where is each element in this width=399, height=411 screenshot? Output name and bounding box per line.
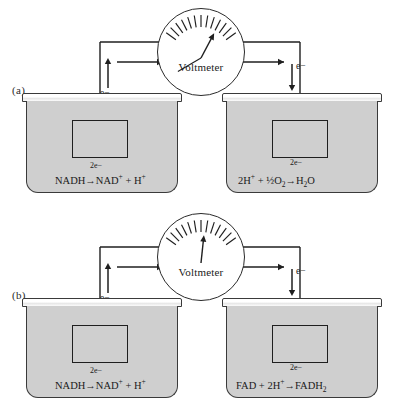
voltmeter-needle-b — [198, 235, 207, 263]
reaction-right-b: FAD + 2H+→FADH2 — [236, 377, 327, 394]
reactant: NADH — [55, 175, 85, 186]
panel-a: (a) e− e− — [0, 0, 399, 205]
electrode-right-a — [272, 120, 328, 158]
voltmeter-b-label: Voltmeter — [158, 266, 244, 278]
voltmeter-needle-a — [198, 32, 216, 60]
electrode-left-a — [72, 120, 128, 158]
voltmeter-b[interactable]: Voltmeter — [157, 213, 245, 301]
product-tail: O — [307, 175, 315, 186]
reaction-right-a: 2H+ + ½O2→H2O — [238, 172, 315, 189]
reaction-arrow: → — [85, 175, 96, 186]
panel-b: (b) e− e− — [0, 205, 399, 410]
reactant-1: 2H — [238, 175, 251, 186]
product-1: NAD — [96, 380, 119, 391]
product-sub: 2 — [323, 385, 327, 394]
reaction-arrow: → — [85, 380, 96, 391]
reaction-left-b: NADH→NAD+ + H+ — [55, 377, 146, 391]
product-2-charge: + — [142, 377, 146, 386]
product: H — [296, 175, 304, 186]
reactant-2: 2H — [267, 380, 280, 391]
electrode-right-b — [272, 325, 328, 363]
electron-count-left-b: 2e− — [90, 366, 102, 375]
plus-sign: + — [123, 175, 134, 186]
product-2: H — [134, 175, 142, 186]
product-2-charge: + — [142, 172, 146, 181]
reactant-2: ½O — [266, 175, 281, 186]
reaction-arrow: → — [284, 380, 295, 391]
electrode-left-b — [72, 325, 128, 363]
electron-count-right-b: 2e− — [290, 363, 302, 372]
plus-sign: + — [256, 380, 267, 391]
voltmeter-a-label: Voltmeter — [158, 61, 244, 73]
electron-count-right-a: 2e− — [290, 158, 302, 167]
reaction-arrow: → — [285, 175, 296, 186]
electron-count-left-a: 2e− — [90, 161, 102, 170]
electron-label-right: e− — [296, 61, 306, 71]
reactant: NADH — [55, 380, 85, 391]
electron-label-right: e− — [296, 266, 306, 276]
product: FADH — [295, 380, 323, 391]
product-1: NAD — [96, 175, 119, 186]
reaction-left-a: NADH→NAD+ + H+ — [55, 172, 146, 186]
plus-sign: + — [123, 380, 134, 391]
product-2: H — [134, 380, 142, 391]
reactant-1: FAD — [236, 380, 256, 391]
voltmeter-a[interactable]: Voltmeter — [157, 8, 245, 96]
plus-sign: + — [255, 175, 266, 186]
voltmeter-gauge-icon — [158, 9, 244, 95]
voltmeter-gauge-icon — [158, 214, 244, 300]
